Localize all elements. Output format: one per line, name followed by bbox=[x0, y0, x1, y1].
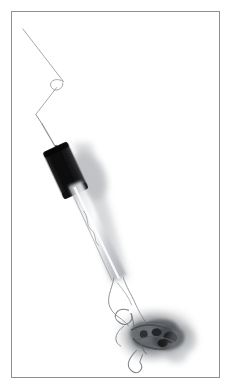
photo-root: Tangled wire with black ferrule and knot… bbox=[0, 0, 233, 391]
photograph-canvas bbox=[12, 12, 219, 377]
photo-frame bbox=[11, 11, 220, 378]
